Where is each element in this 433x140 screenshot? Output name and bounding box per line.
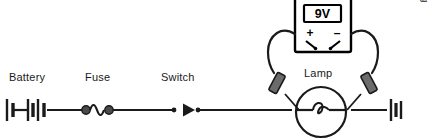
fuse-terminal-right [105, 106, 113, 114]
fuse-terminal-left [82, 106, 90, 114]
switch-label: Switch [161, 71, 195, 83]
positive-probe-lead [268, 31, 295, 73]
fuse-wavy-element [90, 105, 104, 115]
meter-negative-jack-dot [329, 47, 333, 51]
switch-arrow-head [183, 104, 195, 117]
meter-positive-jack-dot [314, 47, 318, 51]
negative-probe-lead [351, 31, 378, 73]
switch-contact-left [172, 108, 177, 113]
negative-probe-needle [347, 94, 361, 110]
lamp-label: Lamp [304, 67, 332, 79]
battery-symbol [7, 99, 44, 121]
switch-contact-right [196, 108, 201, 113]
negative-probe-tip [360, 72, 377, 94]
circuit-diagram-figure: 9V + – [0, 0, 433, 140]
meter-reading-text: 9V [315, 7, 331, 21]
circuit-schematic: 9V + – [0, 0, 433, 140]
positive-probe-tip [268, 72, 285, 94]
meter-positive-label: + [306, 26, 313, 40]
voltmeter: 9V + – [295, 0, 351, 52]
battery-label: Battery [9, 71, 46, 83]
meter-negative-label: – [334, 26, 341, 40]
fuse-symbol [82, 105, 113, 115]
fuse-label: Fuse [85, 71, 110, 83]
switch-symbol [172, 104, 201, 117]
right-terminal-symbol [391, 99, 401, 121]
lamp-symbol [296, 87, 346, 137]
